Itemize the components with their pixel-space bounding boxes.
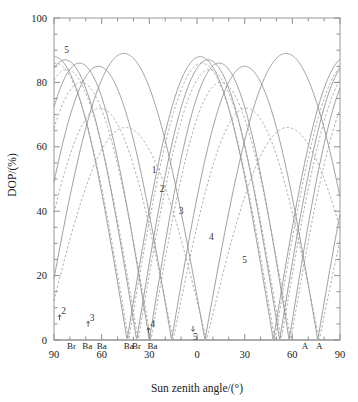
y-tick-label: 60 — [37, 141, 48, 152]
curve-label-1-0: 1 — [152, 165, 157, 175]
curve-label-4-3: 4 — [209, 232, 214, 242]
curve-label-3-2: 3 — [179, 206, 184, 216]
neutral-point-a: A — [316, 341, 323, 351]
curve-label-5-4: 5 — [242, 255, 247, 265]
x-tick-label: 60 — [96, 349, 107, 360]
curve-label-2-1: 2 — [160, 184, 165, 194]
curve-label-5-5: 5 — [64, 45, 69, 55]
y-tick-label: 100 — [31, 13, 47, 24]
neutral-point-a: A — [302, 341, 309, 351]
y-axis-title: DOP/(%) — [6, 153, 19, 197]
x-tick-label: 0 — [194, 349, 199, 360]
x-tick-label: 30 — [144, 349, 155, 360]
neutral-point-br: Br — [132, 341, 141, 351]
neutral-point-ba: Ba — [82, 341, 92, 351]
figure-container: 9060300306090 020406080100 BrBaBaBaBrBaA… — [0, 0, 358, 402]
neutral-point-ba: Ba — [97, 341, 107, 351]
curve-label-4-8: 4 — [150, 319, 155, 329]
neutral-point-br: Br — [67, 341, 76, 351]
x-axis-title: Sun zenith angle/(°) — [151, 382, 243, 395]
x-tick-label: 90 — [335, 349, 346, 360]
x-tick-label: 90 — [49, 349, 60, 360]
curve-label-3-7: 3 — [90, 313, 95, 323]
dop-vs-zenith-chart: 9060300306090 020406080100 BrBaBaBaBrBaA… — [0, 0, 358, 402]
y-tick-label: 40 — [37, 206, 48, 217]
x-tick-label: 60 — [287, 349, 298, 360]
curve-label-5-9: 5 — [193, 332, 198, 342]
y-tick-label: 20 — [37, 270, 48, 281]
y-tick-label: 0 — [42, 335, 47, 346]
x-tick-label: 30 — [239, 349, 250, 360]
y-tick-label: 80 — [37, 77, 48, 88]
neutral-point-ba: Ba — [148, 341, 158, 351]
curve-label-2-6: 2 — [61, 306, 66, 316]
